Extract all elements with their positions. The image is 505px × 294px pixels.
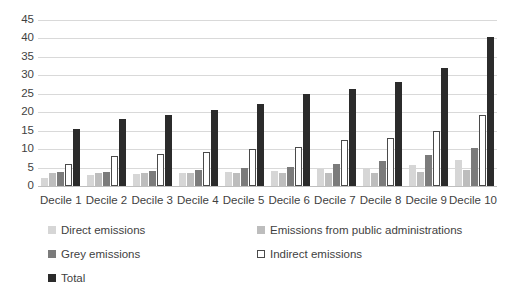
bar [179, 173, 186, 186]
bar [149, 171, 156, 186]
bar-group [268, 20, 314, 186]
bar [333, 164, 340, 186]
legend-swatch-icon [48, 274, 56, 282]
x-axis-tick-label: Decile 4 [175, 190, 221, 210]
legend-item[interactable]: Direct emissions [48, 224, 145, 236]
bar [425, 155, 432, 186]
bar-group [313, 20, 359, 186]
bar-group [38, 20, 84, 186]
y-axis-tick-label: 20 [21, 106, 34, 118]
legend-item[interactable]: Grey emissions [48, 248, 140, 260]
bar-group [84, 20, 130, 186]
bar [395, 82, 402, 186]
legend-item-label: Total [61, 272, 85, 284]
y-axis-tick-label: 15 [21, 125, 34, 137]
x-axis-tick-label: Decile 2 [84, 190, 130, 210]
x-axis-tick-label: Decile 10 [449, 190, 497, 210]
legend-swatch-icon [257, 226, 265, 234]
bar [195, 170, 202, 186]
y-axis-tick-label: 40 [21, 33, 34, 45]
bar [65, 164, 72, 186]
axis-baseline [38, 186, 497, 187]
legend-item[interactable]: Indirect emissions [257, 248, 362, 260]
bar [463, 170, 470, 186]
bar [325, 173, 332, 186]
bar [111, 156, 118, 186]
legend-item-label: Grey emissions [61, 248, 140, 260]
plot-area: 454035302520151050 Decile 1Decile 2Decil… [0, 0, 505, 215]
bar [417, 172, 424, 186]
y-axis-tick-label: 25 [21, 88, 34, 100]
bar [487, 37, 494, 186]
bar [87, 175, 94, 186]
x-axis-tick-label: Decile 7 [312, 190, 358, 210]
bar [295, 147, 302, 186]
bar-group [405, 20, 451, 186]
bar-group [222, 20, 268, 186]
legend-item-label: Direct emissions [61, 224, 145, 236]
bar [225, 172, 232, 186]
bar [49, 173, 56, 186]
x-axis-tick-label: Decile 3 [129, 190, 175, 210]
bar [241, 168, 248, 186]
bar [95, 173, 102, 186]
x-axis-tick-label: Decile 5 [221, 190, 267, 210]
bar [257, 104, 264, 186]
x-axis-tick-label: Decile 8 [358, 190, 404, 210]
bar [133, 174, 140, 186]
bar-group [176, 20, 222, 186]
bar [433, 131, 440, 186]
x-axis-tick-label: Decile 6 [266, 190, 312, 210]
bar-group [359, 20, 405, 186]
bar [41, 178, 48, 186]
legend-item[interactable]: Total [48, 272, 85, 284]
y-axis-tick-label: 5 [28, 162, 34, 174]
bar-groups [38, 20, 497, 186]
y-axis-tick-label: 0 [28, 180, 34, 192]
bar-group [451, 20, 497, 186]
bar [441, 68, 448, 186]
bar [73, 129, 80, 186]
bar [279, 173, 286, 186]
chart-legend: Direct emissionsEmissions from public ad… [0, 218, 505, 294]
bar [211, 110, 218, 186]
bar [363, 168, 370, 186]
y-axis-tick-label: 30 [21, 70, 34, 82]
x-axis-tick-label: Decile 1 [38, 190, 84, 210]
legend-swatch-icon [48, 226, 56, 234]
legend-item[interactable]: Emissions from public administrations [257, 224, 462, 236]
y-axis-tick-label: 35 [21, 51, 34, 63]
bar [471, 148, 478, 186]
bar [249, 149, 256, 186]
bar-chart: 454035302520151050 Decile 1Decile 2Decil… [0, 0, 505, 294]
bar [317, 169, 324, 186]
bar [479, 115, 486, 186]
y-axis-tick-label: 10 [21, 143, 34, 155]
legend-item-label: Indirect emissions [270, 248, 362, 260]
bar [371, 173, 378, 186]
bar [57, 172, 64, 186]
bar [203, 152, 210, 186]
bar-group [130, 20, 176, 186]
bar [233, 173, 240, 186]
bar [287, 167, 294, 186]
bar [341, 140, 348, 186]
bar [387, 138, 394, 186]
bar [187, 173, 194, 186]
legend-swatch-icon [257, 250, 265, 258]
bar [409, 165, 416, 186]
legend-item-label: Emissions from public administrations [270, 224, 462, 236]
bar [165, 115, 172, 186]
x-axis-tick-label: Decile 9 [403, 190, 449, 210]
x-axis-tick-labels: Decile 1Decile 2Decile 3Decile 4Decile 5… [38, 190, 497, 210]
legend-swatch-icon [48, 250, 56, 258]
bar [349, 89, 356, 186]
bar [141, 173, 148, 186]
bar [303, 94, 310, 186]
bar [455, 160, 462, 186]
bar [103, 172, 110, 186]
y-axis-tick-labels: 454035302520151050 [8, 0, 34, 215]
bar [157, 154, 164, 186]
bar [379, 161, 386, 186]
bar [271, 171, 278, 186]
